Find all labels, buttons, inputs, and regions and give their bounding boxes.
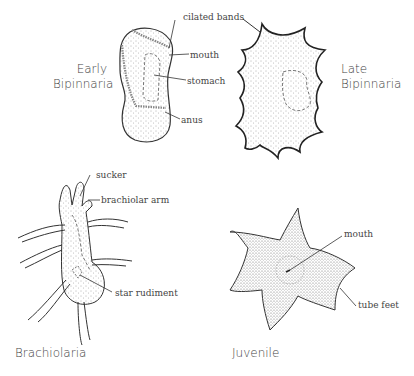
stage-title-brachiolaria: Brachiolaria	[15, 346, 86, 361]
stage-title-late-bipinnaria: Late Bipinnaria	[341, 62, 401, 92]
stage-title-line1: Early	[53, 62, 107, 77]
label-mouth-early: mouth	[190, 50, 219, 60]
label-ciliated-bands: cilated bands	[183, 12, 244, 22]
stage-title-juvenile: Juvenile	[232, 346, 279, 361]
stage-title-line2: Bipinnaria	[341, 77, 401, 92]
label-stomach: stomach	[187, 76, 225, 86]
label-tube-feet: tube feet	[358, 300, 399, 310]
stage-title-line2: Bipinnaria	[53, 77, 107, 92]
label-anus: anus	[181, 115, 203, 125]
label-mouth-juvenile: mouth	[344, 229, 373, 239]
label-star-rudiment: star rudiment	[115, 288, 178, 298]
stage-title-early-bipinnaria: Early Bipinnaria	[53, 62, 107, 92]
juvenile-drawing	[230, 208, 356, 330]
late-bipinnaria-drawing	[236, 19, 325, 158]
label-brachiolar-arm: brachiolar arm	[101, 195, 169, 205]
early-bipinnaria-drawing	[120, 20, 189, 142]
label-sucker: sucker	[96, 170, 127, 180]
stage-title-line1: Late	[341, 62, 401, 77]
